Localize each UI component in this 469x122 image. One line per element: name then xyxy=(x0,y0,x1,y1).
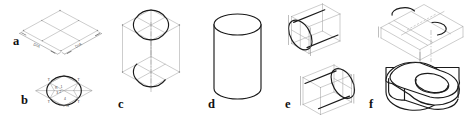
panel-e-lower-dimensions xyxy=(301,74,354,106)
panel-a-center-lines xyxy=(42,21,79,41)
panel-b-tangent-label-2: T xyxy=(77,77,80,82)
panel-a-dimension-label-right: DIA xyxy=(74,41,83,49)
technical-figure: DIA DIA a xyxy=(0,0,469,122)
panel-f-block-dimensions xyxy=(379,27,421,65)
panel-f-block-bottom-left xyxy=(381,38,420,60)
panel-c: c xyxy=(118,9,180,111)
panel-a-dimension-right: DIA xyxy=(62,32,102,55)
panel-b-center-label-4: 4 xyxy=(64,97,66,101)
figure-drawing-canvas: DIA DIA a xyxy=(0,0,469,122)
panel-d-top-ellipse xyxy=(214,14,261,35)
panel-d-cylinder-body xyxy=(214,25,261,100)
panel-a: DIA DIA a xyxy=(13,10,102,55)
panel-e-lower-cylinder xyxy=(301,65,360,115)
panel-f-finished-plate xyxy=(386,62,459,110)
panel-e-upper-construction-box xyxy=(292,4,341,54)
panel-label-b: b xyxy=(21,93,28,107)
panel-b-center-label-3: 3 xyxy=(56,91,58,95)
panel-a-dimension-label-left: DIA xyxy=(33,41,42,49)
panel-e: e xyxy=(284,4,360,115)
panel-b-tangent-label-4: T xyxy=(77,99,80,104)
panel-label-d: d xyxy=(208,97,215,111)
panel-e-upper-cylinder xyxy=(284,4,340,56)
panel-label-f: f xyxy=(369,97,374,111)
panel-label-e: e xyxy=(285,97,291,111)
panel-f-construction-block xyxy=(379,5,464,65)
panel-b-center-label-2: 2 xyxy=(59,90,61,94)
panel-f-top-layout-lines xyxy=(389,12,451,46)
panel-f: f xyxy=(369,5,463,112)
panel-c-bottom-half-ellipse xyxy=(133,64,165,87)
panel-a-dimension-left: DIA xyxy=(19,32,61,55)
panel-label-a: a xyxy=(13,34,20,48)
panel-b: T T T T R 1 2 3 4 R b xyxy=(21,75,92,107)
panel-f-bore-arc xyxy=(432,22,446,35)
panel-b-tangent-label-3: T xyxy=(48,99,51,104)
panel-label-c: c xyxy=(118,97,124,111)
panel-d: d xyxy=(208,14,261,111)
panel-f-block-bottom-right xyxy=(420,37,463,60)
panel-e-lower-construction-box xyxy=(303,65,352,115)
panel-b-tangent-label-1: T xyxy=(48,77,51,82)
